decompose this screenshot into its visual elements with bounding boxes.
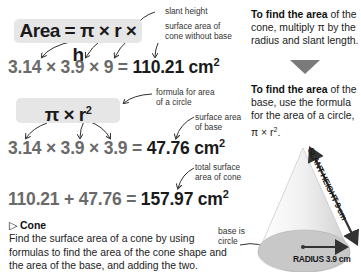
base-circle-line1: base is bbox=[218, 226, 245, 236]
base-circle-line2: circle bbox=[218, 236, 245, 246]
radius-label-text: RADIUS 3.9 cm bbox=[293, 254, 351, 264]
base-is-circle-note: base is circle bbox=[218, 226, 245, 246]
radius-label: RADIUS 3.9 cm bbox=[293, 254, 351, 264]
cone-diagram bbox=[0, 0, 361, 272]
